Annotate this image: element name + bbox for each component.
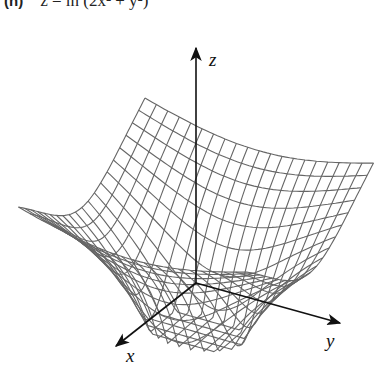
mesh-line xyxy=(88,201,317,338)
mesh-line xyxy=(19,98,146,216)
mesh-line xyxy=(75,212,304,349)
mesh-line xyxy=(110,143,236,338)
mesh-line xyxy=(31,210,259,279)
z-axis-label: z xyxy=(208,49,217,70)
mesh-line xyxy=(30,105,156,228)
mesh-line xyxy=(236,163,363,286)
y-axis-label: y xyxy=(324,330,335,351)
y-axis xyxy=(196,283,340,323)
x-axis-label: x xyxy=(125,345,135,366)
mesh-line xyxy=(156,156,283,351)
surface-plot: x y z xyxy=(0,0,387,389)
surface-plot-figure: (n) z = ln (2x² + y²) x y z xyxy=(0,0,387,389)
